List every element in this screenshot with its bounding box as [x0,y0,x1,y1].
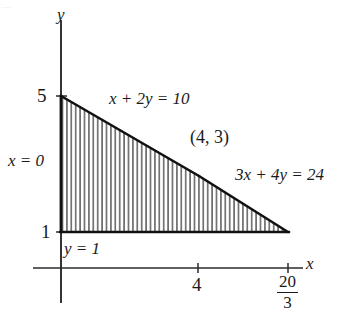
fraction-denominator: 3 [277,294,298,312]
label-x-plus-2y-equals-10: x + 2y = 10 [109,90,190,107]
label-3x-plus-4y-equals-24: 3x + 4y = 24 [235,166,324,183]
label-y-equals-1: y = 1 [64,240,100,257]
x-tick-label-4: 4 [192,275,202,294]
y-axis-label: y [57,6,65,23]
vertex-point-label-4-3: (4, 3) [190,128,229,146]
y-tick-label-5: 5 [37,86,47,105]
y-tick-label-1: 1 [41,222,51,241]
x-tick-label-20-over-3: 20 3 [277,273,298,312]
label-x-equals-0: x = 0 [8,152,44,169]
fraction-numerator: 20 [277,273,298,291]
x-axis-label: x [306,255,314,272]
